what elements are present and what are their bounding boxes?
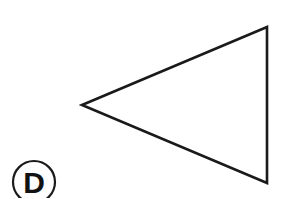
- figure-container: D: [0, 0, 292, 198]
- figure-canvas: D: [0, 0, 292, 198]
- label-letter: D: [23, 166, 45, 199]
